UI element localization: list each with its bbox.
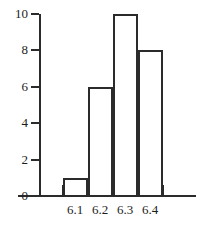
histogram-chart: 10 8 6 4 2 0 6.1 6.2 6.3 6.4 xyxy=(0,0,208,232)
y-axis-tick-label-2: 2 xyxy=(6,153,28,166)
histogram-bar xyxy=(113,14,138,197)
x-axis-tick xyxy=(162,185,164,197)
x-axis-tick-label-4: 6.4 xyxy=(130,203,170,217)
y-axis-label-wrapper: 8 xyxy=(0,43,28,56)
x-axis-tick xyxy=(87,185,89,197)
y-axis-label-wrapper: 6 xyxy=(0,80,28,93)
y-axis-tick-label-8: 8 xyxy=(6,43,28,56)
x-axis-tick xyxy=(112,185,114,197)
x-axis-tick xyxy=(137,185,139,197)
y-axis-label-wrapper: 4 xyxy=(0,116,28,129)
y-axis-label-wrapper: 0 xyxy=(0,189,28,202)
y-axis-tick xyxy=(31,13,39,15)
histogram-bar xyxy=(88,87,113,197)
y-axis-tick xyxy=(31,86,39,88)
y-axis-line xyxy=(39,14,41,197)
y-axis-tick xyxy=(31,159,39,161)
y-axis-tick-label-6: 6 xyxy=(6,80,28,93)
histogram-bar xyxy=(63,178,88,197)
y-axis-label-wrapper: 2 xyxy=(0,153,28,166)
y-axis-tick-label-0: 0 xyxy=(6,189,28,202)
y-axis-tick xyxy=(31,122,39,124)
y-axis-tick-label-10: 10 xyxy=(6,7,28,20)
x-axis-tick xyxy=(62,185,64,197)
y-axis-label-wrapper: 10 xyxy=(0,7,28,20)
y-axis-tick xyxy=(31,49,39,51)
y-axis-tick-label-4: 4 xyxy=(6,116,28,129)
histogram-bar xyxy=(138,50,163,197)
